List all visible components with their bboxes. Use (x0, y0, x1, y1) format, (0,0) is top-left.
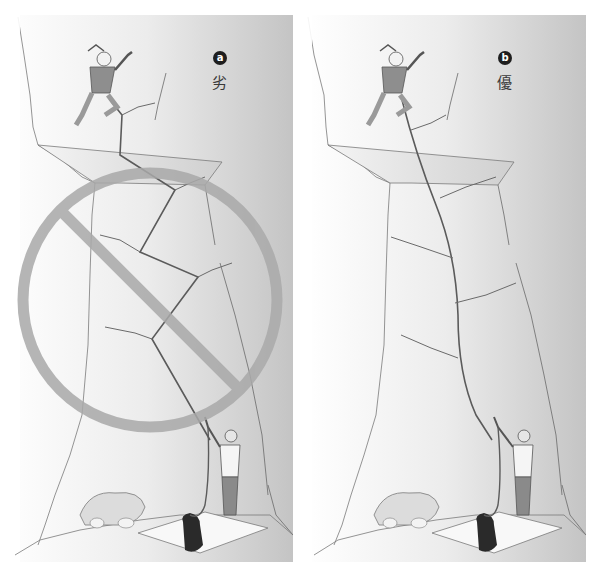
illustration-b (306, 15, 586, 562)
illustration-a (0, 15, 293, 562)
verdict-label-good: 優 (497, 71, 512, 92)
panel-badge-a: a (213, 51, 227, 65)
verdict-label-bad: 劣 (212, 71, 227, 92)
panel-b-good-example: b 優 (306, 15, 586, 562)
panel-a-bad-example: a 劣 (0, 15, 293, 562)
panel-badge-b: b (498, 51, 512, 65)
